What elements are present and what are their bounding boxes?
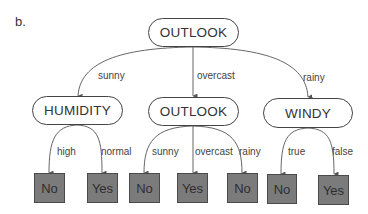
decision-tree-diagram: b. OUTLOOK sunny overcast rainy HUMIDITY… [0,0,368,214]
leaf-outlook-rainy: No [227,173,258,203]
leaf-label: No [234,181,251,196]
leaf-windy-true: No [267,174,297,204]
leaf-humidity-normal: Yes [87,173,118,203]
node-label: OUTLOOK [160,25,227,40]
edge-label-rainy: rainy [303,72,325,83]
edge-label-false: false [332,146,353,157]
node-label: OUTLOOK [160,104,227,119]
leaf-label: Yes [323,183,344,198]
leaf-label: No [274,182,291,197]
edge-root-sunny [78,47,193,96]
edge-label-rainy: rainy [239,146,261,157]
root-node-outlook: OUTLOOK [148,18,239,47]
node-label: HUMIDITY [44,103,111,118]
node-humidity: HUMIDITY [32,96,123,125]
leaf-label: Yes [92,181,113,196]
leaf-outlook-overcast: Yes [177,173,208,203]
edge-windy-false [308,128,334,174]
edge-label-sunny: sunny [152,146,179,157]
leaf-label: No [136,181,153,196]
leaf-outlook-sunny: No [129,173,160,203]
leaf-label: Yes [182,181,203,196]
node-label: WINDY [285,106,331,121]
node-windy: WINDY [263,98,353,128]
edge-label-high: high [57,146,76,157]
leaf-windy-false: Yes [318,175,349,205]
edge-label-sunny: sunny [98,70,125,81]
node-outlook: OUTLOOK [148,97,239,126]
edge-label-normal: normal [101,146,132,157]
leaf-label: No [41,181,58,196]
edge-label-overcast: overcast [195,146,233,157]
edge-label-true: true [288,146,305,157]
edge-label-overcast: overcast [197,70,235,81]
leaf-humidity-high: No [34,173,65,203]
edge-humidity-normal [77,125,102,173]
